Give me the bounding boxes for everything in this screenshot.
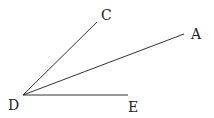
label-a: A xyxy=(190,26,202,42)
label-e: E xyxy=(128,99,138,115)
label-d: D xyxy=(8,97,19,113)
label-c: C xyxy=(101,7,112,23)
ray-da xyxy=(23,34,184,95)
ray-dc xyxy=(23,22,97,95)
angle-diagram: C A D E xyxy=(0,0,214,118)
